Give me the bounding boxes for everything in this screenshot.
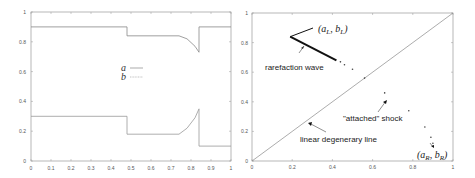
- figure: 00.10.20.30.40.50.60.70.80.9100.20.40.60…: [0, 0, 475, 178]
- data-point: [344, 64, 346, 66]
- x-tick-label: 0.4: [329, 164, 336, 170]
- data-point: [424, 126, 426, 128]
- right-axis-ticks: 00.20.40.60.8100.20.40.60.81: [241, 10, 455, 170]
- x-tick-label: 0.8: [188, 165, 195, 171]
- x-tick-label: 0.5: [128, 165, 135, 171]
- rarefaction-top-branch: [290, 28, 313, 37]
- degenerate-arrow: [309, 123, 326, 132]
- data-point: [364, 77, 366, 79]
- y-tick-label: 0.6: [19, 69, 26, 75]
- rarefaction-label: rarefaction wave: [265, 63, 324, 72]
- x-tick-label: 0: [30, 165, 33, 171]
- left-plot-frame: [31, 12, 231, 161]
- x-tick-label: 0.4: [108, 165, 115, 171]
- rarefaction-segment: [290, 37, 336, 61]
- shock-label: "attached" shock: [343, 114, 403, 123]
- data-point: [340, 61, 342, 63]
- y-tick-label: 0: [245, 158, 248, 164]
- data-point: [384, 92, 386, 94]
- right-state-label: (aR, bR): [417, 149, 448, 162]
- x-tick-label: 0.6: [369, 164, 376, 170]
- y-tick-label: 0.6: [241, 69, 248, 75]
- x-tick-label: 0.9: [208, 165, 215, 171]
- y-tick-label: 1: [23, 9, 26, 15]
- x-tick-label: 0.1: [48, 165, 55, 171]
- x-tick-label: 0.3: [88, 165, 95, 171]
- x-tick-label: 0.2: [68, 165, 75, 171]
- y-tick-label: 0.8: [241, 40, 248, 46]
- data-points: [340, 61, 434, 144]
- x-tick-label: 0.8: [409, 164, 416, 170]
- left-legend: a b: [121, 62, 143, 82]
- data-point: [352, 68, 354, 70]
- series-b-line: [31, 109, 231, 146]
- x-tick-label: 0: [251, 164, 254, 170]
- y-tick-label: 0.4: [241, 99, 248, 105]
- arrow-head-icon: [431, 145, 434, 148]
- y-tick-label: 0.4: [19, 98, 26, 104]
- left-chart: 00.10.20.30.40.50.60.70.80.9100.20.40.60…: [19, 9, 233, 171]
- y-tick-label: 0.8: [19, 39, 26, 45]
- data-point: [430, 137, 432, 139]
- arrow-head-icon: [308, 122, 312, 126]
- arrow-head-icon: [383, 100, 387, 104]
- x-tick-label: 0.2: [289, 164, 296, 170]
- arrow-head-icon: [301, 46, 304, 49]
- right-chart: 00.20.40.60.8100.20.40.60.81 (aL, bL) ra…: [241, 10, 455, 170]
- left-axis-ticks: 00.10.20.30.40.50.60.70.80.9100.20.40.60…: [19, 9, 233, 171]
- x-tick-label: 0.7: [168, 165, 175, 171]
- data-point: [408, 110, 410, 112]
- x-tick-label: 1: [230, 165, 233, 171]
- degenerate-label: linear degenerary line: [300, 135, 377, 144]
- data-point: [432, 142, 434, 144]
- y-tick-label: 0.2: [19, 128, 26, 134]
- y-tick-label: 0.2: [241, 128, 248, 134]
- left-state-label: (aL, bL): [318, 23, 348, 36]
- series-a-line: [31, 27, 231, 52]
- y-tick-label: 1: [245, 10, 248, 16]
- x-tick-label: 1: [452, 164, 455, 170]
- legend-b-label: b: [121, 71, 126, 82]
- y-tick-label: 0: [23, 158, 26, 164]
- x-tick-label: 0.6: [148, 165, 155, 171]
